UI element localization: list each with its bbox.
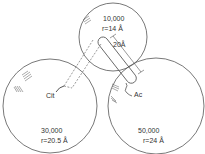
ac-pointer: [125, 83, 132, 96]
cit-connector-lines: [64, 40, 101, 88]
hatching-left: [14, 71, 32, 92]
cit-label: Cit: [46, 92, 55, 99]
subunit-right-radius: r=24 Å: [143, 136, 164, 144]
subunit-top-radius: r=14 Å: [102, 24, 123, 32]
ac-label: Ac: [134, 91, 143, 98]
subunit-diagram: 10,000 r=14 Å 20Å Cit Ac 30,000 r=20.5 Å…: [0, 0, 205, 154]
subunit-top-mass: 10,000: [103, 15, 125, 22]
subunit-left-mass: 30,000: [41, 127, 63, 134]
hatching-top: [83, 16, 91, 24]
rod-length-label: 20Å: [113, 40, 126, 48]
cit-connector-base: [64, 86, 72, 88]
cit-pointer: [56, 86, 64, 92]
subunit-left-radius: r=20.5 Å: [41, 136, 68, 144]
subunit-right-mass: 50,000: [138, 127, 160, 134]
subunit-top-circle: [79, 3, 147, 71]
